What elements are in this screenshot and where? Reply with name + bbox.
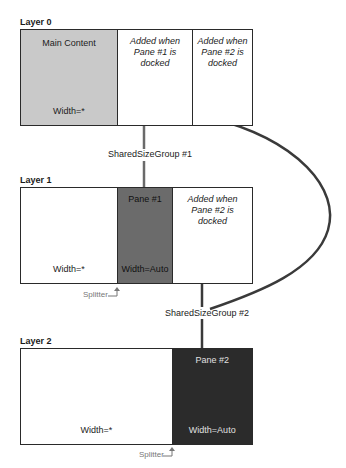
pane2-slot-note: Added when Pane #2 is docked <box>193 36 252 69</box>
layer-1-pane1: Pane #1 Width=Auto <box>117 187 174 284</box>
splitter-arrowhead-1 <box>114 287 120 291</box>
pane1-width: Width=Auto <box>118 264 173 275</box>
layer-0-main-content-cell: Main Content Width=* <box>20 29 118 126</box>
layer-0-pane2-slot: Added when Pane #2 is docked <box>192 29 253 126</box>
layer-2-label: Layer 2 <box>20 336 52 346</box>
main-content-title: Main Content <box>21 38 117 49</box>
layer-1-pane2-slot: Added when Pane #2 is docked <box>172 187 253 284</box>
layer-2-splitter-label: Splitter <box>139 450 164 459</box>
pane2-width: Width=Auto <box>173 425 253 436</box>
pane2-title: Pane #2 <box>173 355 253 366</box>
layer-1-label: Layer 1 <box>20 175 52 185</box>
layer-0-pane1-slot: Added when Pane #1 is docked <box>117 29 194 126</box>
layer-2-pane2: Pane #2 Width=Auto <box>172 348 254 445</box>
layer-1-content-cell: Width=* <box>20 187 118 284</box>
pane1-title: Pane #1 <box>118 194 173 205</box>
splitter-arrowhead-2 <box>169 447 175 451</box>
main-content-width: Width=* <box>21 106 117 117</box>
layer-1-content-width: Width=* <box>21 264 117 275</box>
shared-size-group-1-label: SharedSizeGroup #1 <box>108 149 192 159</box>
pane1-slot-note: Added when Pane #1 is docked <box>118 36 193 69</box>
shared-size-group-2-label: SharedSizeGroup #2 <box>165 308 249 318</box>
layer-0-label: Layer 0 <box>20 17 52 27</box>
layer-2-content-cell: Width=* <box>20 348 173 445</box>
layer-1-pane2-slot-note: Added when Pane #2 is docked <box>173 194 252 227</box>
layer-2-content-width: Width=* <box>21 425 172 436</box>
layer-1-splitter-label: Splitter <box>83 290 108 299</box>
